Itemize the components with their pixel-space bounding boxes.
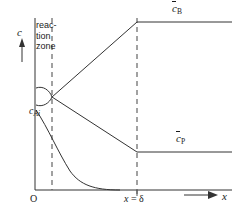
reaction-zone-line-3: zone (36, 41, 57, 52)
curve-label-cb: cB (172, 3, 182, 16)
reaction-zone-line-1: reac- (36, 20, 57, 31)
curve-label-cp-base: c (176, 131, 181, 144)
x-delta-value: δ (139, 193, 144, 204)
y-axis-arrow-icon (19, 38, 25, 62)
curve-label-cp-subscript: P (181, 137, 185, 146)
curve-label-cai: cAi (29, 106, 40, 118)
curve-cai-decay (36, 110, 120, 190)
x-axis-label: x (222, 191, 227, 202)
curve-lens-lower-arc (36, 97, 52, 106)
x-axis-arrow-icon (184, 191, 218, 199)
reaction-zone-annotation: reac- tion zone (36, 20, 57, 52)
curve-cp-fall (52, 97, 137, 152)
origin-label: O (30, 194, 37, 204)
curve-label-cb-subscript: B (177, 7, 182, 16)
curve-label-cai-subscript: Ai (33, 109, 40, 118)
curve-cb-rise (52, 22, 137, 97)
curve-lens-upper-arc (36, 87, 52, 97)
reaction-zone-line-2: tion (36, 31, 57, 42)
x-delta-annotation: x = δ (124, 194, 144, 204)
y-axis-label: c (17, 27, 22, 38)
concentration-profile-figure: c reac- tion zone O x = δ x cB cP cAi (0, 0, 238, 214)
x-delta-equals: = (128, 193, 139, 204)
curve-label-cb-base: c (172, 1, 177, 14)
curve-label-cp: cP (176, 133, 185, 146)
